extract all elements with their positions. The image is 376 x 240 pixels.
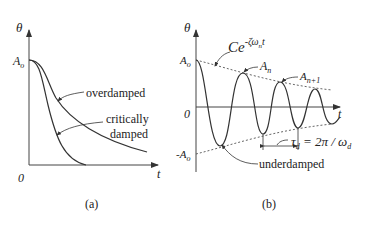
peak-n1-leader [282,77,298,82]
panel-b-caption: (b) [262,197,276,211]
peak-n1-label: An+1 [299,70,320,85]
panel-a-amplitude-label: Ao [12,54,24,70]
panel-b-origin-label: 0 [184,107,190,121]
critically-damped-label-2: damped [110,127,148,141]
panel-a-caption: (a) [85,197,98,211]
panel-b-amp-pos-label: Ao [179,54,191,69]
underdamped-label: underdamped [259,157,324,171]
peak-n-label: An [259,59,271,75]
peak-n-leader [244,67,258,72]
panel-b-theta-label: θ [184,20,191,35]
overdamped-label: overdamped [86,86,145,100]
panel-b-amp-neg-label: -Ao [176,148,190,163]
panel-b: θ t 0 Ao -Ao Ce-ζωnt An An+1 τd = 2π / ω… [176,20,352,211]
overdamped-leader [58,92,84,101]
panel-a: θ t 0 Ao overdamped critically damped (a… [12,20,161,211]
envelope-label: Ce-ζωnt [228,36,265,55]
critically-damped-label-1: critically [106,112,149,126]
critically-damped-curve [29,60,86,165]
panel-a-theta-label: θ [16,20,23,35]
panel-a-origin-label: 0 [18,171,24,185]
panel-a-t-label: t [157,167,161,181]
underdamped-leader [222,145,258,164]
period-label: τd = 2π / ωd [291,134,352,151]
period-leader [277,140,288,145]
